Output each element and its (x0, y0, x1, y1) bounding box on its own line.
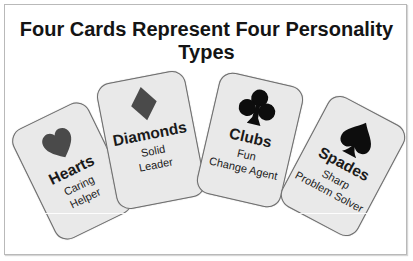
reflection-line (30, 213, 380, 214)
slide-title: Four Cards Represent Four Personality Ty… (0, 18, 413, 64)
